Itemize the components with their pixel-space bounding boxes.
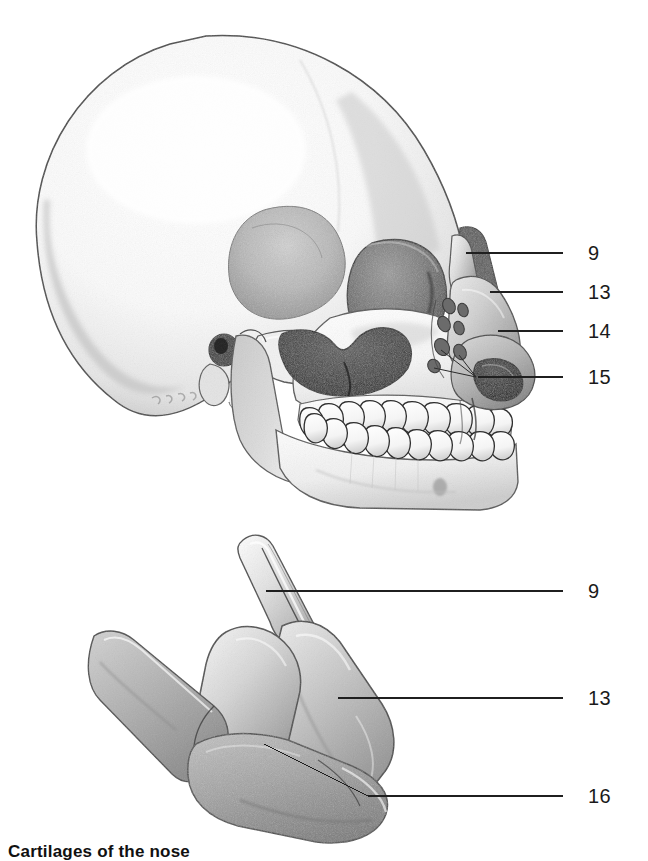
label-13-skull: 13 [588, 282, 611, 302]
isolated-nasal-cartilage-complex [88, 535, 394, 843]
illustration-page: 9 13 14 15 9 13 16 Cartilages of the nos… [0, 0, 648, 861]
skull-lateral-view [36, 35, 535, 510]
label-9-cartilage: 9 [588, 581, 599, 601]
figure-caption: Cartilages of the nose [8, 845, 190, 861]
label-15-skull: 15 [588, 367, 611, 387]
label-14-skull: 14 [588, 321, 611, 341]
figure-caption-clip: Cartilages of the nose [0, 845, 648, 861]
label-9-skull: 9 [588, 243, 599, 263]
anatomy-figure-canvas [0, 0, 648, 861]
label-16-cartilage: 16 [588, 786, 611, 806]
label-13-cartilage: 13 [588, 688, 611, 708]
temporal-fossa [228, 206, 345, 319]
